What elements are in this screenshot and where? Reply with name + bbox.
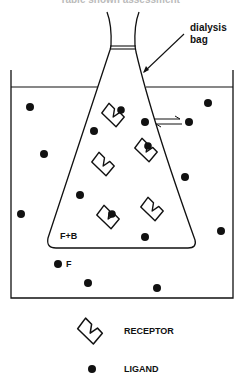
bound-ligand-icon	[108, 210, 116, 218]
bound-ligand-icon	[117, 106, 125, 114]
ligand-icon	[90, 127, 98, 135]
ligand-icon	[17, 210, 25, 218]
bound-plus-free-label: F+B	[60, 231, 77, 242]
dialysis-diagram	[0, 0, 240, 381]
ligand-icon	[40, 150, 48, 158]
free-label: F	[66, 259, 72, 270]
ligand-icon	[141, 118, 149, 126]
ligand-icon	[204, 99, 212, 107]
ligand-icon	[217, 227, 225, 235]
ligand-icon	[76, 191, 84, 199]
ligand-icon	[181, 173, 189, 181]
dialysis-bag-pointer-arrow	[143, 34, 184, 73]
ligand-icon	[54, 260, 62, 268]
legend-ligand-icon	[88, 365, 96, 373]
legend-receptor-label: RECEPTOR	[124, 326, 174, 337]
dialysis-bag-label-line1: dialysis	[190, 22, 227, 33]
ligand-icon	[26, 103, 34, 111]
bound-ligand-icon	[144, 142, 152, 150]
ligand-icon	[185, 118, 193, 126]
dialysis-bag-label-line2: bag	[190, 34, 208, 45]
legend	[77, 317, 103, 373]
equilibrium-arrows-icon	[154, 116, 182, 127]
ligand-icon	[153, 284, 161, 292]
dialysis-bag	[48, 12, 196, 248]
legend-receptor-icon	[77, 317, 103, 345]
legend-ligand-label: LIGAND	[124, 364, 159, 375]
ligand-icon	[141, 233, 149, 241]
ligand-icon	[84, 279, 92, 287]
